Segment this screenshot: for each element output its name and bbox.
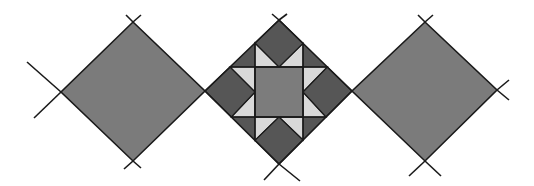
guide-line xyxy=(27,62,61,92)
guide-line xyxy=(425,15,433,22)
quilt-svg xyxy=(0,0,534,186)
guide-line xyxy=(133,15,141,22)
guide-line xyxy=(497,80,509,90)
guide-line xyxy=(34,92,61,118)
guide-line xyxy=(272,14,279,20)
guide-line xyxy=(124,161,133,169)
guide-line xyxy=(133,161,141,168)
guide-line xyxy=(126,15,133,22)
guide-line xyxy=(409,161,425,176)
guide-line xyxy=(418,15,425,22)
guide-line xyxy=(497,90,509,100)
quilt-diagram: Three quilt blocks set on point: two pla… xyxy=(0,0,534,186)
guide-line xyxy=(264,164,279,180)
center-square xyxy=(255,67,303,117)
left-plain-diamond xyxy=(61,22,205,161)
right-plain-diamond xyxy=(352,22,497,161)
guide-line xyxy=(279,164,300,181)
guide-line xyxy=(279,14,287,20)
guide-line xyxy=(425,161,441,176)
